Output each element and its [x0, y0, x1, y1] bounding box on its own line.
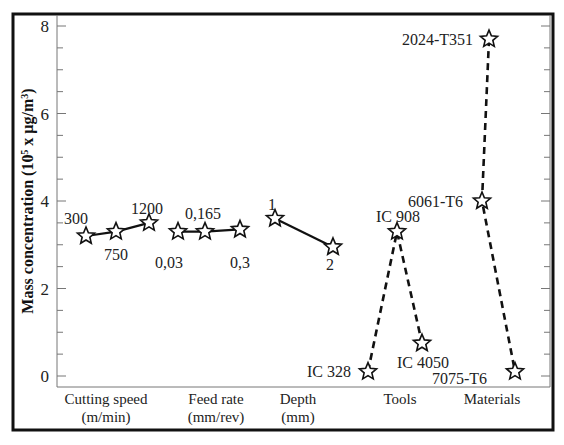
data-point-label: IC 908: [376, 208, 420, 225]
star-marker-icon: [231, 220, 248, 236]
star-marker-icon: [196, 223, 213, 239]
star-marker-icon: [413, 334, 430, 350]
y-tick-label: 8: [41, 17, 50, 36]
data-point-label: 1: [268, 196, 276, 213]
series-feed-rate: 0,030,1650,3: [155, 205, 250, 271]
category-unit: (mm): [281, 409, 314, 426]
star-marker-icon: [388, 223, 405, 239]
star-marker-icon: [324, 238, 341, 254]
category-label: Depth: [280, 391, 317, 407]
category-unit: (mm/rev): [188, 409, 245, 426]
category-label: Cutting speed: [65, 391, 148, 407]
series-materials: 2024-T3516061-T67075-T6: [402, 30, 524, 387]
star-marker-icon: [169, 223, 186, 239]
y-tick-label: 2: [41, 280, 50, 299]
category-unit: (m/min): [81, 409, 130, 426]
star-marker-icon: [506, 363, 523, 379]
series-tools: IC 328IC 908IC 4050: [307, 208, 449, 380]
data-point-label: 2: [326, 256, 334, 273]
data-point-label: IC 328: [307, 363, 351, 380]
star-marker-icon: [77, 227, 94, 243]
star-marker-icon: [359, 363, 376, 379]
data-point-label: 1200: [131, 200, 163, 217]
data-point-label: 0,03: [155, 254, 183, 271]
y-axis-label: Mass concentration (105 x µg/m3): [19, 88, 38, 313]
y-tick-label: 6: [41, 105, 50, 124]
data-point-label: 6061-T6: [408, 193, 463, 210]
x-category-labels: Cutting speed(m/min)Feed rate(mm/rev)Dep…: [65, 391, 521, 426]
data-point-label: 7075-T6: [432, 370, 487, 387]
series-depth: 12: [266, 196, 341, 273]
star-marker-icon: [107, 223, 124, 239]
y-tick-label: 0: [41, 367, 50, 386]
data-point-label: 300: [64, 210, 88, 227]
category-label: Tools: [383, 391, 416, 407]
star-marker-icon: [473, 192, 490, 208]
data-series: 30075012000,030,1650,312IC 328IC 908IC 4…: [64, 30, 524, 387]
data-point-label: 750: [104, 246, 128, 263]
data-point-label: 0,3: [230, 254, 250, 271]
category-label: Materials: [464, 391, 521, 407]
star-marker-icon: [480, 30, 497, 46]
series-line: [368, 232, 422, 372]
data-point-label: 0,165: [185, 205, 221, 222]
y-tick-label: 4: [41, 192, 50, 211]
mass-concentration-chart: 02468 Mass concentration (105 x µg/m3) 3…: [0, 0, 564, 445]
y-axis-title: Mass concentration (105 x µg/m3): [19, 88, 38, 313]
data-point-label: 2024-T351: [402, 31, 473, 48]
axes: 02468: [41, 15, 551, 387]
series-cutting-speed: 3007501200: [64, 200, 163, 263]
series-line: [275, 219, 333, 247]
data-point-label: IC 4050: [397, 354, 449, 371]
category-label: Feed rate: [188, 391, 244, 407]
